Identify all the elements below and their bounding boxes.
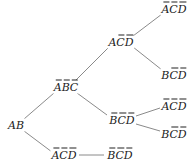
literal: B bbox=[109, 114, 117, 127]
tree-edge bbox=[24, 131, 52, 152]
literal: C bbox=[169, 128, 177, 141]
literal: B bbox=[107, 149, 115, 162]
literal: A bbox=[161, 100, 169, 113]
tree-node: AB bbox=[7, 119, 25, 132]
literal: D bbox=[125, 36, 134, 49]
literal: A bbox=[54, 81, 62, 94]
tree-node: BCD bbox=[160, 128, 187, 141]
tree-node: ACD bbox=[160, 3, 187, 16]
literal: D bbox=[124, 149, 133, 162]
literal: B bbox=[161, 69, 169, 82]
tree-node: ACD bbox=[50, 149, 77, 162]
tree-node: BCD bbox=[160, 69, 187, 82]
literal: A bbox=[161, 3, 169, 16]
literal: D bbox=[178, 3, 187, 16]
literal: C bbox=[70, 81, 78, 94]
literal: A bbox=[8, 119, 16, 132]
tree-node: ACD bbox=[107, 36, 134, 49]
literal: B bbox=[62, 81, 70, 94]
literal: B bbox=[16, 119, 24, 132]
tree-edge bbox=[133, 47, 162, 70]
tree-node: BCD bbox=[108, 114, 135, 127]
literal: A bbox=[51, 149, 59, 162]
tree-edge bbox=[136, 124, 160, 131]
literal: D bbox=[178, 128, 187, 141]
literal: D bbox=[126, 114, 135, 127]
literal: D bbox=[68, 149, 77, 162]
tree-node: ABC bbox=[53, 81, 79, 94]
tree-edge bbox=[24, 93, 54, 119]
literal: D bbox=[178, 69, 187, 82]
tree-node: BCD bbox=[106, 149, 133, 162]
tree-edge bbox=[136, 108, 160, 116]
literal: C bbox=[117, 114, 125, 127]
literal: A bbox=[108, 36, 116, 49]
tree-edge bbox=[77, 93, 107, 115]
tree-edge bbox=[76, 47, 109, 80]
literal: C bbox=[169, 69, 177, 82]
literal: B bbox=[161, 128, 169, 141]
literal: C bbox=[115, 149, 123, 162]
tree-node: ACD bbox=[160, 100, 187, 113]
literal: D bbox=[178, 100, 187, 113]
tree-edge bbox=[133, 14, 162, 36]
